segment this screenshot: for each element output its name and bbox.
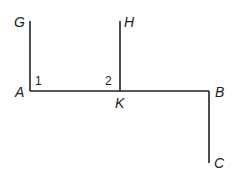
angle-label-1: 1 (35, 74, 42, 88)
angle-label-2: 2 (105, 74, 112, 88)
label-H: H (124, 14, 135, 30)
geometry-diagram: G H A K B C 1 2 (0, 0, 233, 175)
label-B: B (215, 84, 224, 100)
label-A: A (14, 84, 24, 100)
label-K: K (115, 95, 125, 111)
diagram-canvas: G H A K B C 1 2 (0, 0, 233, 175)
label-C: C (214, 155, 225, 171)
label-G: G (14, 14, 25, 30)
